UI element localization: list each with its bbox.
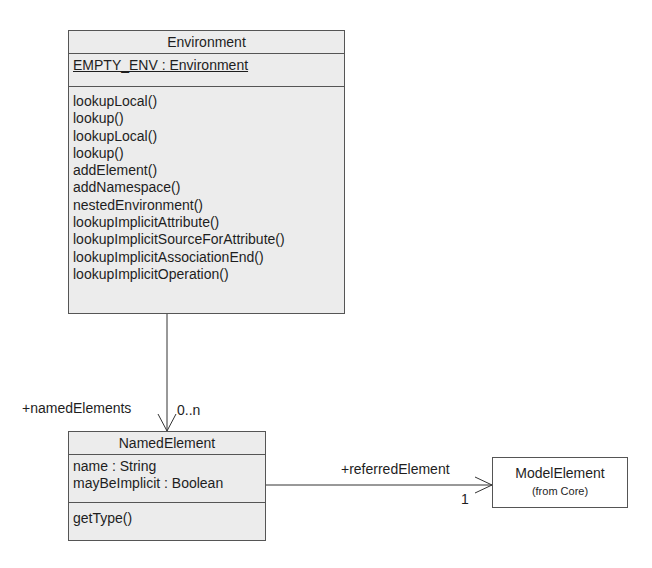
class-environment[interactable]: Environment EMPTY_ENV : Environment look… xyxy=(68,30,345,314)
attributes-compartment: EMPTY_ENV : Environment xyxy=(69,54,344,87)
operations-compartment: getType() xyxy=(69,503,265,531)
class-named-element[interactable]: NamedElement name : String mayBeImplicit… xyxy=(68,431,266,541)
role-label-referred-element: +referredElement xyxy=(341,461,450,477)
operation: lookupImplicitOperation() xyxy=(73,266,340,283)
operation: addNamespace() xyxy=(73,179,340,196)
operation: lookupLocal() xyxy=(73,128,340,145)
multiplicity-label-referred-element: 1 xyxy=(461,491,469,507)
package-note: (from Core) xyxy=(493,484,627,498)
class-name: NamedElement xyxy=(69,432,265,455)
operation: lookupImplicitSourceForAttribute() xyxy=(73,231,340,248)
operation: lookupImplicitAssociationEnd() xyxy=(73,249,340,266)
operation: lookup() xyxy=(73,110,340,127)
operations-compartment: lookupLocal() lookup() lookupLocal() loo… xyxy=(69,87,344,287)
class-name: ModelElement xyxy=(493,465,627,482)
attributes-compartment: name : String mayBeImplicit : Boolean xyxy=(69,455,265,503)
multiplicity-label-named-elements: 0..n xyxy=(177,402,200,418)
role-label-named-elements: +namedElements xyxy=(22,400,131,416)
attribute-may-be-implicit: mayBeImplicit : Boolean xyxy=(73,475,261,492)
operation: lookup() xyxy=(73,145,340,162)
operation: addElement() xyxy=(73,162,340,179)
operation: getType() xyxy=(73,510,261,527)
attribute-name: name : String xyxy=(73,458,261,475)
class-model-element[interactable]: ModelElement (from Core) xyxy=(492,457,628,508)
operation: lookupLocal() xyxy=(73,93,340,110)
operation: lookupImplicitAttribute() xyxy=(73,214,340,231)
class-name: Environment xyxy=(69,31,344,54)
operation: nestedEnvironment() xyxy=(73,197,340,214)
attribute-empty-env: EMPTY_ENV : Environment xyxy=(73,57,340,74)
